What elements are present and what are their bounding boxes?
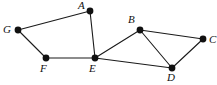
graph-vertex-f: [43, 55, 50, 62]
graph-edge-c-d: [172, 39, 203, 68]
graph-edge-e-d: [95, 58, 172, 68]
vertex-label-b: B: [128, 14, 135, 25]
graph-edge-a-e: [90, 11, 95, 58]
vertex-label-f: F: [40, 63, 47, 74]
vertex-label-c: C: [209, 34, 216, 45]
graph-edge-b-c: [140, 30, 203, 39]
vertex-label-e: E: [89, 63, 96, 74]
graph-edge-b-d: [140, 30, 172, 68]
vertex-label-g: G: [3, 24, 11, 35]
graph-vertex-a: [87, 8, 94, 15]
graph-diagram: ABCDEFG: [0, 0, 217, 85]
graph-vertex-g: [15, 27, 22, 34]
graph-edge-g-f: [18, 30, 46, 58]
graph-edge-e-b: [95, 30, 140, 58]
graph-edge-g-a: [18, 11, 90, 30]
graph-vertex-c: [200, 36, 207, 43]
vertex-label-d: D: [167, 72, 175, 83]
graph-vertex-e: [92, 55, 99, 62]
vertex-label-a: A: [78, 0, 85, 11]
graph-vertex-b: [137, 27, 144, 34]
graph-canvas: [0, 0, 217, 85]
